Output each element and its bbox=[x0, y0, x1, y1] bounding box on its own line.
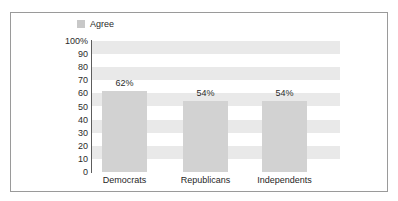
y-axis-tick-label: 50 bbox=[56, 103, 88, 112]
y-axis-tick-label: 80 bbox=[56, 63, 88, 72]
x-axis-category-label: Democrats bbox=[80, 175, 170, 186]
y-axis-tick-label: 60 bbox=[56, 89, 88, 98]
legend-label: Agree bbox=[90, 19, 114, 29]
x-axis-category-label: Republicans bbox=[161, 175, 251, 186]
y-axis-tick-label: 20 bbox=[56, 142, 88, 151]
bar-independents bbox=[262, 101, 307, 172]
bar-value-label: 54% bbox=[176, 88, 236, 98]
bar-value-label: 54% bbox=[255, 88, 315, 98]
bar-value-label: 62% bbox=[95, 78, 155, 88]
y-axis-tick-label: 70 bbox=[56, 76, 88, 85]
bar-democrats bbox=[102, 91, 147, 172]
y-axis-tick-label: 90 bbox=[56, 50, 88, 59]
y-axis-tick-label: 30 bbox=[56, 129, 88, 138]
x-axis-category-label: Independents bbox=[240, 175, 330, 186]
grid-band bbox=[92, 41, 340, 54]
chart-figure: Agree 0102030405060708090100% 62%Democra… bbox=[0, 0, 398, 201]
bar-republicans bbox=[183, 101, 228, 172]
y-axis-tick-label: 40 bbox=[56, 116, 88, 125]
y-axis-tick-label: 100% bbox=[56, 37, 88, 46]
y-axis-tick-labels: 0102030405060708090100% bbox=[54, 0, 88, 201]
y-axis-tick-label: 10 bbox=[56, 155, 88, 164]
y-axis-line bbox=[91, 40, 92, 173]
